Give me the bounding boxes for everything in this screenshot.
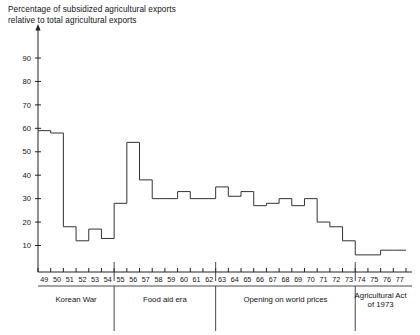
y-tick-label: 70 (23, 101, 31, 110)
x-tick-label: 59 (167, 275, 175, 284)
x-tick-label: 67 (269, 275, 277, 284)
x-axis: 4950515253545556575859606162636465666768… (38, 268, 412, 284)
era-label: Korean War (55, 295, 97, 304)
x-tick-label: 56 (129, 275, 137, 284)
x-tick-label: 63 (218, 275, 226, 284)
x-tick-label: 52 (78, 275, 86, 284)
x-tick-label: 76 (383, 275, 391, 284)
y-tick-label: 40 (23, 171, 31, 180)
x-tick-label: 58 (155, 275, 163, 284)
y-axis-arrow (35, 24, 40, 31)
x-tick-label: 61 (193, 275, 201, 284)
series-step-line (38, 131, 406, 255)
era-label: Agricultural Act (355, 291, 408, 300)
x-tick-label: 51 (66, 275, 74, 284)
x-tick-label: 70 (307, 275, 315, 284)
x-tick-label: 75 (370, 275, 378, 284)
y-tick-label: 80 (23, 77, 31, 86)
x-tick-label: 50 (53, 275, 61, 284)
y-tick-label: 30 (23, 194, 31, 203)
x-tick-label: 49 (40, 275, 48, 284)
y-tick-label: 20 (23, 218, 31, 227)
x-tick-label: 77 (396, 275, 404, 284)
x-tick-label: 64 (231, 275, 239, 284)
y-tick-label: 10 (23, 241, 31, 250)
x-tick-label: 66 (256, 275, 264, 284)
data-series-group (38, 131, 406, 255)
x-tick-label: 69 (294, 275, 302, 284)
era-label: Opening on world prices (243, 295, 327, 304)
x-tick-label: 73 (345, 275, 353, 284)
x-tick-group: 4950515253545556575859606162636465666768… (38, 268, 406, 284)
x-tick-label: 57 (142, 275, 150, 284)
x-tick-label: 71 (320, 275, 328, 284)
x-tick-label: 74 (358, 275, 366, 284)
x-tick-label: 72 (332, 275, 340, 284)
chart-svg: 102030405060708090 495051525354555657585… (0, 0, 420, 335)
x-tick-label: 68 (281, 275, 289, 284)
x-tick-label: 65 (243, 275, 251, 284)
x-tick-label: 53 (91, 275, 99, 284)
chart-container: Percentage of subsidized agricultural ex… (0, 0, 420, 335)
x-tick-label: 55 (116, 275, 124, 284)
y-tick-label: 50 (23, 147, 31, 156)
era-label-line2: of 1973 (368, 300, 394, 309)
x-tick-label: 60 (180, 275, 188, 284)
era-label: Food aid era (143, 295, 187, 304)
y-axis: 102030405060708090 (23, 24, 41, 272)
y-tick-label: 90 (23, 54, 31, 63)
x-tick-label: 62 (205, 275, 213, 284)
x-tick-label: 54 (104, 275, 112, 284)
y-tick-label: 60 (23, 124, 31, 133)
